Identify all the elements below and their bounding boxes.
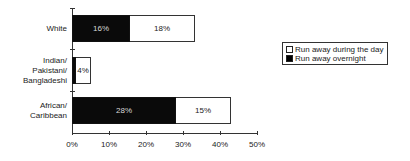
- legend-item-night: Run away overnight: [286, 54, 384, 63]
- bar-indian-pakistani-bangladeshi: 4%: [72, 57, 91, 84]
- x-tick: [146, 131, 147, 135]
- x-tick: [220, 131, 221, 135]
- bar-segment-day: 18%: [130, 15, 195, 42]
- legend-label-day: Run away during the day: [295, 45, 384, 54]
- category-label-african-caribbean: African/ Caribbean: [30, 101, 67, 121]
- x-axis: [72, 133, 258, 134]
- stacked-bar-chart: White Indian/ Pakistani/ Bangladeshi Afr…: [0, 0, 410, 161]
- x-tick-label: 50%: [242, 140, 272, 149]
- legend-label-night: Run away overnight: [295, 54, 366, 63]
- category-label-indian-pakistani-bangladeshi: Indian/ Pakistani/ Bangladeshi: [23, 56, 67, 86]
- x-tick-label: 20%: [131, 140, 161, 149]
- bar-african-caribbean: 28% 15%: [72, 97, 231, 124]
- legend: Run away during the day Run away overnig…: [282, 42, 388, 65]
- legend-swatch-black-icon: [286, 55, 293, 62]
- x-tick-label: 10%: [94, 140, 124, 149]
- legend-item-day: Run away during the day: [286, 45, 384, 54]
- y-tick: [70, 91, 75, 92]
- bar-segment-overnight: 28%: [72, 97, 176, 124]
- bar-segment-overnight: 16%: [72, 15, 130, 42]
- x-tick-label: 30%: [168, 140, 198, 149]
- x-tick: [109, 131, 110, 135]
- y-tick: [70, 49, 75, 50]
- x-tick: [183, 131, 184, 135]
- bar-segment-day: 15%: [176, 97, 231, 124]
- y-tick: [70, 8, 75, 9]
- bar-segment-day: 4%: [76, 57, 91, 84]
- category-label-white: White: [47, 24, 67, 34]
- bar-white: 16% 18%: [72, 15, 195, 42]
- x-tick-label: 40%: [205, 140, 235, 149]
- x-tick: [72, 131, 73, 135]
- x-tick-label: 0%: [57, 140, 87, 149]
- x-tick: [257, 131, 258, 135]
- legend-swatch-white-icon: [286, 46, 293, 53]
